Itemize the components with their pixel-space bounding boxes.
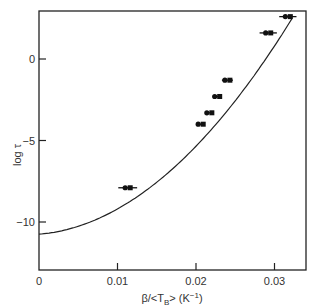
y-axis-ticks: 0−5−10 [16,53,46,228]
fit-curve [39,19,292,234]
plot-frame [39,11,306,270]
chart: 00.010.020.03 0−5−10 log τ β/<TB> (K−1) [0,0,316,307]
data-point [279,14,296,19]
x-tick-label: 0.01 [107,275,128,287]
data-point [204,110,214,115]
data-point [212,94,222,99]
y-axis-label: log τ [11,143,23,166]
data-point [196,122,206,127]
data-point [260,30,277,35]
x-tick-label: 0.03 [264,275,285,287]
x-tick-label: 0 [36,275,42,287]
y-tick-label: −10 [16,216,35,228]
y-tick-label: 0 [29,53,35,65]
x-axis-ticks: 00.010.020.03 [36,263,285,287]
x-tick-label: 0.02 [185,275,206,287]
x-axis-label: β/<TB> (K−1) [141,291,202,307]
data-point [118,185,137,190]
data-point [222,78,233,83]
y-tick-label: −5 [22,135,35,147]
data-points [118,14,296,190]
